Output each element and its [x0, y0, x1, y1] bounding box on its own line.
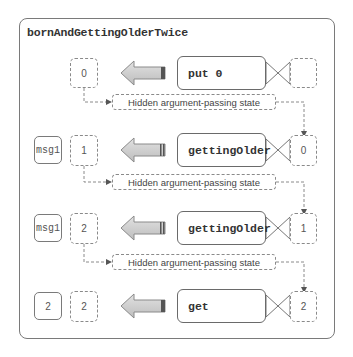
function-box-get: get [177, 289, 266, 323]
hidden-state-box: Hidden argument-passing state [112, 94, 276, 110]
input-state-box [290, 58, 317, 88]
bowtie-connector-icon [266, 62, 290, 84]
flow-arrow-icon [121, 294, 165, 318]
message-box: msg1 [34, 214, 62, 242]
output-state-box: 0 [70, 58, 98, 88]
output-state-box: 2 [70, 291, 98, 322]
hidden-state-box: Hidden argument-passing state [112, 174, 276, 190]
flow-arrow-icon [121, 216, 165, 240]
function-box-gettingolder: gettingOlder [177, 133, 266, 167]
message-box: msg1 [34, 136, 62, 164]
function-box-gettingolder: gettingOlder [177, 211, 266, 245]
input-state-box: 0 [290, 135, 317, 166]
input-state-box: 1 [290, 213, 317, 244]
bowtie-connector-icon [266, 295, 290, 317]
input-state-box: 2 [290, 291, 317, 322]
function-box-put: put 0 [177, 56, 266, 90]
flow-arrow-icon [121, 138, 165, 162]
result-box: 2 [34, 292, 62, 320]
hidden-state-box: Hidden argument-passing state [112, 254, 276, 270]
output-state-box: 2 [70, 213, 98, 244]
flow-arrow-icon [121, 61, 165, 85]
output-state-box: 1 [70, 135, 98, 166]
